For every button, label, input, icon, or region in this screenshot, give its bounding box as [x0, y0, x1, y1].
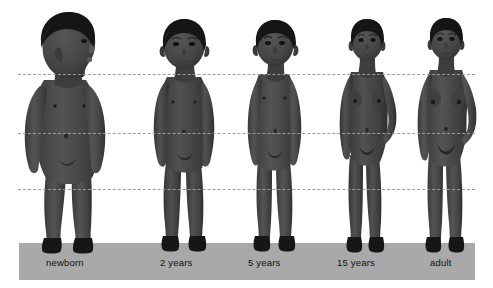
age-label-newborn: newborn — [46, 258, 84, 268]
figure-5-years — [248, 20, 302, 252]
figure-15-years — [340, 19, 397, 253]
diagram-stage: newborn 2 years 5 years 15 years adult — [0, 0, 493, 288]
reference-line-chin — [18, 74, 475, 75]
growth-proportions-diagram: newborn 2 years 5 years 15 years adult — [0, 0, 493, 288]
age-label-2-years: 2 years — [160, 258, 193, 268]
reference-line-knee — [18, 189, 475, 190]
figure-2-years — [154, 19, 215, 252]
age-label-adult: adult — [430, 258, 452, 268]
figures-group — [0, 0, 493, 288]
age-label-15-years: 15 years — [337, 258, 375, 268]
reference-line-navel — [18, 133, 475, 134]
age-label-5-years: 5 years — [248, 258, 281, 268]
figure-adult — [418, 18, 477, 253]
